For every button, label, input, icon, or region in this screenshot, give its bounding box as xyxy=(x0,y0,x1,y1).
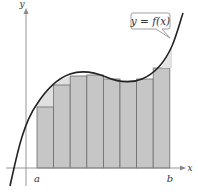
rectangle-7 xyxy=(137,79,154,168)
function-label-callout: y = f(x) xyxy=(130,13,170,38)
y-axis-label: y xyxy=(18,0,25,9)
rectangle-8 xyxy=(153,68,170,168)
rectangle-5 xyxy=(103,79,120,168)
x-axis-label: x xyxy=(187,163,192,173)
riemann-sum-diagram: y = f(x) y x a b xyxy=(0,0,198,195)
excess-region xyxy=(162,52,170,68)
rectangle-1 xyxy=(37,107,54,168)
interval-end-label: b xyxy=(167,173,173,184)
interval-start-label: a xyxy=(34,173,40,184)
rectangle-4 xyxy=(87,75,104,168)
function-label: y = f(x) xyxy=(130,15,170,27)
rectangle-3 xyxy=(70,76,87,168)
rectangle-2 xyxy=(54,85,71,168)
rectangle-6 xyxy=(120,81,137,168)
x-axis-arrow-icon xyxy=(180,166,186,171)
